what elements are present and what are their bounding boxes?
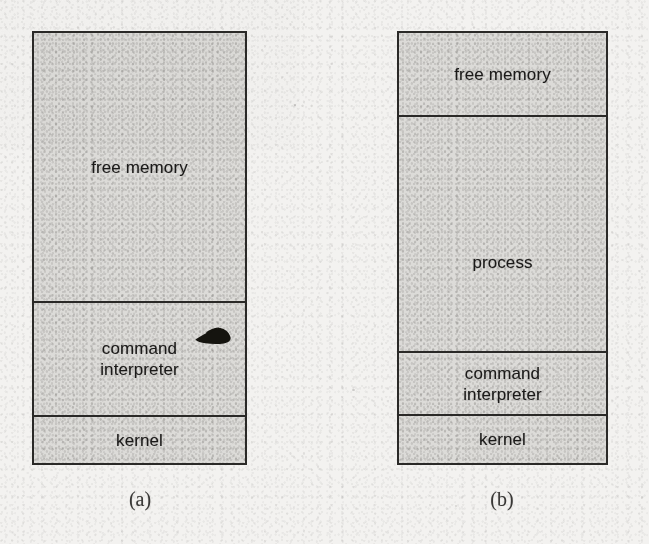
region-command-interpreter-a: command interpreter (34, 303, 245, 415)
region-label-command-interpreter-a: command interpreter (100, 338, 179, 380)
region-command-interpreter-b: command interpreter (399, 353, 606, 414)
region-free-memory-b: free memory (399, 33, 606, 115)
region-label-process-b: process (472, 252, 532, 273)
region-kernel-b: kernel (399, 416, 606, 463)
region-label-kernel-b: kernel (479, 429, 526, 450)
region-label-free-memory-a: free memory (91, 157, 188, 178)
region-label-kernel-a: kernel (116, 430, 163, 451)
region-free-memory-a: free memory (34, 33, 245, 301)
scan-speck (294, 104, 296, 106)
region-process-b: process (399, 117, 606, 351)
figure-caption-b: (b) (442, 488, 562, 511)
memory-box-a: free memory command interpreter kernel (32, 31, 247, 465)
scan-speck (352, 389, 355, 391)
region-label-free-memory-b: free memory (454, 64, 551, 85)
region-kernel-a: kernel (34, 417, 245, 463)
figure-caption-a: (a) (80, 488, 200, 511)
region-label-command-interpreter-b: command interpreter (463, 363, 542, 405)
memory-box-b: free memory process command interpreter … (397, 31, 608, 465)
